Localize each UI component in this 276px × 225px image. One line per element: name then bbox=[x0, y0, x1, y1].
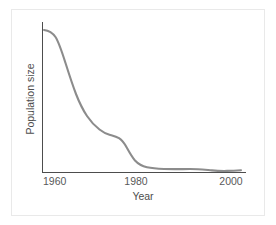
x-tick-label-2000: 2000 bbox=[219, 175, 243, 187]
population-decline-line-chart: 1960 1980 2000 Year Population size bbox=[0, 0, 276, 225]
y-axis-title: Population size bbox=[24, 63, 36, 134]
population-curve bbox=[44, 30, 241, 171]
x-axis-title: Year bbox=[132, 190, 154, 202]
chart-figure: 1960 1980 2000 Year Population size bbox=[0, 0, 276, 225]
x-tick-label-1960: 1960 bbox=[43, 175, 67, 187]
x-tick-label-1980: 1980 bbox=[124, 175, 148, 187]
